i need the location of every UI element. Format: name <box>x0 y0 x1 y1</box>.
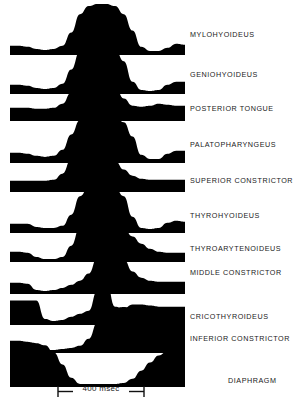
trace-label-inferior-constrictor: INFERIOR CONSTRICTOR <box>190 334 290 343</box>
trace-label-superior-constrictor: SUPERIOR CONSTRICTOR <box>190 176 293 185</box>
trace-label-thyrohyoideus: THYROHYOIDEUS <box>190 211 260 220</box>
waveform-fill <box>10 342 185 387</box>
trace-label-mylohyoideus: MYLOHYOIDEUS <box>190 30 255 39</box>
trace-label-middle-constrictor: MIDDLE CONSTRICTOR <box>190 268 282 277</box>
trace-label-diaphragm: DIAPHRAGM <box>228 376 276 385</box>
emg-waveform <box>10 340 185 389</box>
trace-label-posterior-tongue: POSTERIOR TONGUE <box>190 104 274 113</box>
trace-label-thyroarytenoideus: THYROARYTENOIDEUS <box>190 244 281 253</box>
scale-bar: 400 msec <box>57 384 145 400</box>
emg-figure: 400 msec MYLOHYOIDEUSGENIOHYOIDEUSPOSTER… <box>0 0 300 406</box>
trace-label-cricothyroideus: CRICOTHYROIDEUS <box>190 312 269 321</box>
trace-label-palatopharyngeus: PALATOPHARYNGEUS <box>190 140 276 149</box>
scale-bar-label: 400 msec <box>57 384 145 393</box>
trace-label-geniohyoideus: GENIOHYOIDEUS <box>190 70 258 79</box>
